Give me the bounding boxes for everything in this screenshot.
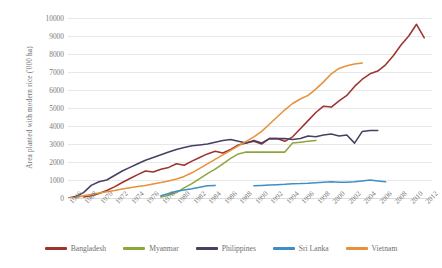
legend-item[interactable]: Philippines (196, 244, 256, 253)
legend-swatch-icon (45, 247, 67, 249)
y-axis-tick: 3000 (49, 140, 64, 149)
plot-area (68, 18, 432, 198)
y-axis-tick: 10000 (46, 14, 64, 23)
y-axis-tick: 0 (60, 194, 64, 203)
y-axis-tick: 1000 (49, 176, 64, 185)
legend-label: Philippines (222, 244, 256, 253)
legend-item[interactable]: Vietnam (346, 244, 398, 253)
legend-label: Myanmar (149, 244, 179, 253)
legend-swatch-icon (123, 247, 145, 249)
y-axis-tick: 2000 (49, 158, 64, 167)
y-axis-tick: 5000 (49, 104, 64, 113)
legend-item[interactable]: Myanmar (123, 244, 179, 253)
legend-swatch-icon (346, 247, 368, 249)
y-axis-tick: 8000 (49, 50, 64, 59)
legend-swatch-icon (196, 247, 218, 249)
y-axis-tick: 9000 (49, 32, 64, 41)
series-lines (68, 18, 432, 198)
line-chart: Area planted with modern rice ('000 ha) … (0, 0, 442, 268)
legend-item[interactable]: Bangladesh (45, 244, 106, 253)
series-line (68, 63, 362, 198)
legend-item[interactable]: Sri Lanka (273, 244, 329, 253)
legend-label: Bangladesh (71, 244, 106, 253)
y-axis-tick: 7000 (49, 68, 64, 77)
legend-label: Sri Lanka (299, 244, 329, 253)
y-axis-tick: 6000 (49, 86, 64, 95)
x-axis-tick-labels: 1966196819701972197419761978198019821984… (68, 200, 432, 240)
series-line (161, 140, 316, 197)
series-line (83, 24, 424, 197)
y-axis-tick-labels: 0100020003000400050006000700080009000100… (30, 18, 64, 198)
y-axis-tick: 4000 (49, 122, 64, 131)
chart-legend: BangladeshMyanmarPhilippinesSri LankaVie… (0, 244, 442, 253)
legend-label: Vietnam (372, 244, 398, 253)
legend-swatch-icon (273, 247, 295, 249)
